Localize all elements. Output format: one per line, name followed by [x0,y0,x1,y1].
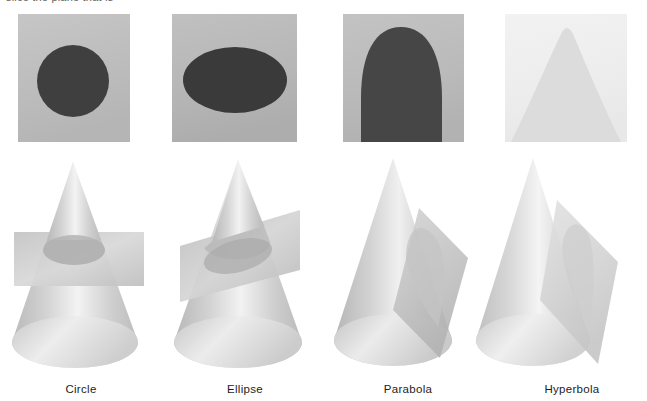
cone-with-horizontal-plane [4,150,154,378]
cone-base [174,316,302,368]
cone-with-vertical-plane-hyperbola [462,150,642,378]
caption-circle: Circle [41,383,121,395]
parabola-cross-section-graphic [343,14,464,142]
caption-ellipse: Ellipse [205,383,285,395]
caption-ellipse-label: Ellipse [227,383,263,395]
caption-parabola-label: Parabola [384,383,432,395]
section-panel-ellipse [172,14,297,142]
cone-base [12,316,138,368]
cone-cell-parabola [320,150,475,378]
parabola-shape [361,27,442,142]
circle-cross-section-graphic [18,14,130,142]
caption-hyperbola-label: Hyperbola [544,383,599,395]
circle-shape [37,45,109,117]
ellipse-shape [183,47,287,113]
section-panel-parabola [343,14,464,142]
cone-with-vertical-plane-parabola [320,150,475,378]
caption-parabola: Parabola [368,383,448,395]
section-panel-hyperbola [505,14,627,142]
caption-circle-label: Circle [65,383,96,395]
section-panel-circle [18,14,130,142]
cone-cell-ellipse [158,150,310,378]
clipped-heading-text: slice the plane that is [6,0,113,3]
conic-sections-figure: slice the plane that is [0,0,647,401]
cone-cell-circle [4,150,154,378]
cone-apex-above-plane [47,162,101,240]
cone-with-tilted-plane [158,150,310,378]
caption-hyperbola: Hyperbola [532,383,612,395]
ellipse-cross-section-graphic [172,14,297,142]
cone-cell-hyperbola [462,150,642,378]
hyperbola-cross-section-graphic [505,14,627,142]
